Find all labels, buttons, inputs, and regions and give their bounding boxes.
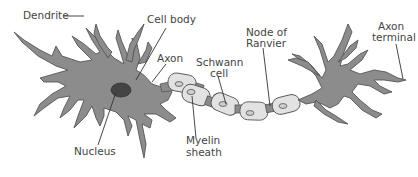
label-myelin-sheath-line1: Myelin [186,134,220,146]
label-schwann-cell-line2: cell [210,67,228,79]
label-nucleus: Nucleus [74,145,116,157]
axon-terminal-leader [396,44,403,79]
axon-with-myelin [160,72,302,121]
label-axon-terminal-line2: terminal [372,31,416,43]
neuron-diagram: Dendrite Cell body Axon Schwann cell Nod… [0,0,418,177]
nucleus-shape [111,83,131,97]
node-of-ranvier-leader [263,48,270,106]
label-myelin-sheath-line2: sheath [186,146,222,158]
label-dendrite: Dendrite [23,9,69,21]
label-cell-body: Cell body [147,13,196,25]
label-node-of-ranvier-line2: Ranvier [246,37,287,49]
axon-leader [152,64,166,82]
label-axon: Axon [157,52,183,64]
cell-body-with-dendrites [14,24,176,158]
